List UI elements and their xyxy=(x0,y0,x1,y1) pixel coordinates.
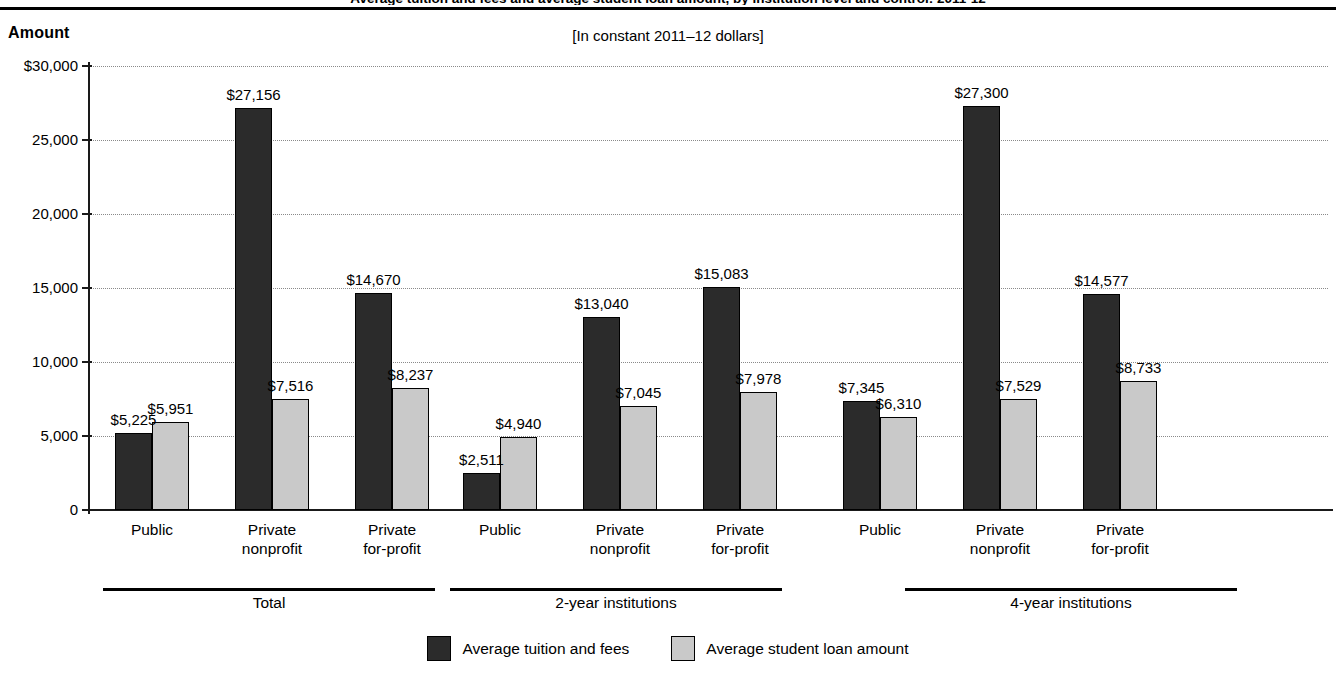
bar-loan xyxy=(1000,399,1037,510)
bar-loan xyxy=(620,406,657,510)
y-axis-tick-label: $30,000 xyxy=(2,57,78,74)
bar-value-loan: $7,529 xyxy=(996,377,1042,394)
bar-tuition xyxy=(1083,294,1120,510)
chart-legend: Average tuition and feesAverage student … xyxy=(0,636,1336,661)
y-axis-tick-label: 25,000 xyxy=(2,131,78,148)
bar-tuition xyxy=(583,317,620,510)
y-axis-tick-label: 20,000 xyxy=(2,205,78,222)
category-label: Public xyxy=(131,520,173,539)
bar-loan xyxy=(880,417,917,510)
bar-tuition xyxy=(355,293,392,510)
category-label: Private for-profit xyxy=(363,520,421,558)
header-rule xyxy=(0,7,1336,10)
bar-value-loan: $8,237 xyxy=(388,366,434,383)
legend-item: Average student loan amount xyxy=(671,636,908,661)
group-label: 4-year institutions xyxy=(1010,594,1131,612)
legend-item: Average tuition and fees xyxy=(427,636,629,661)
bar-tuition xyxy=(463,473,500,510)
legend-swatch xyxy=(427,636,451,661)
bar-tuition xyxy=(703,287,740,510)
y-axis-labels: $30,00025,00020,00015,00010,0005,0000 xyxy=(0,0,78,683)
group-label: Total xyxy=(253,594,286,612)
chart-subtitle: [In constant 2011–12 dollars] xyxy=(0,27,1336,44)
category-label: Private nonprofit xyxy=(970,520,1030,558)
bar-value-loan: $8,733 xyxy=(1116,359,1162,376)
group-label: 2-year institutions xyxy=(555,594,676,612)
bar-value-loan: $7,978 xyxy=(736,370,782,387)
bar-value-loan: $4,940 xyxy=(496,415,542,432)
bar-loan xyxy=(740,392,777,510)
group-bracket xyxy=(103,588,435,591)
y-axis-tick-label: 5,000 xyxy=(2,427,78,444)
bar-tuition xyxy=(115,433,152,510)
legend-label: Average student loan amount xyxy=(706,640,908,658)
group-bracket xyxy=(905,588,1237,591)
bar-value-tuition: $2,511 xyxy=(459,451,504,468)
y-axis-tick-label: 10,000 xyxy=(2,353,78,370)
bar-value-loan: $7,045 xyxy=(616,384,662,401)
legend-swatch xyxy=(671,636,695,661)
plot-area xyxy=(88,66,1328,510)
y-axis-tick-label: 0 xyxy=(2,501,78,518)
bar-value-tuition: $14,670 xyxy=(346,271,400,288)
category-label: Private for-profit xyxy=(711,520,769,558)
bar-value-tuition: $14,577 xyxy=(1074,272,1128,289)
bar-value-tuition: $15,083 xyxy=(694,265,748,282)
category-label: Public xyxy=(479,520,521,539)
category-label: Private for-profit xyxy=(1091,520,1149,558)
bar-loan xyxy=(392,388,429,510)
bar-value-loan: $7,516 xyxy=(268,377,314,394)
bar-tuition xyxy=(963,106,1000,510)
legend-label: Average tuition and fees xyxy=(462,640,629,658)
clipped-title-line: Average tuition and fees and average stu… xyxy=(0,0,1336,5)
bar-tuition xyxy=(843,401,880,510)
bar-tuition xyxy=(235,108,272,510)
bar-loan xyxy=(1120,381,1157,510)
bar-value-tuition: $13,040 xyxy=(574,295,628,312)
category-label: Private nonprofit xyxy=(242,520,302,558)
y-axis-tick-label: 15,000 xyxy=(2,279,78,296)
bar-value-loan: $6,310 xyxy=(876,395,922,412)
category-label: Public xyxy=(859,520,901,539)
category-label: Private nonprofit xyxy=(590,520,650,558)
bar-loan xyxy=(500,437,537,510)
bar-loan xyxy=(272,399,309,510)
bar-value-tuition: $27,156 xyxy=(226,86,280,103)
bar-value-tuition: $27,300 xyxy=(954,84,1008,101)
group-bracket xyxy=(450,588,782,591)
bar-value-loan: $5,951 xyxy=(148,400,194,417)
bar-loan xyxy=(152,422,189,510)
